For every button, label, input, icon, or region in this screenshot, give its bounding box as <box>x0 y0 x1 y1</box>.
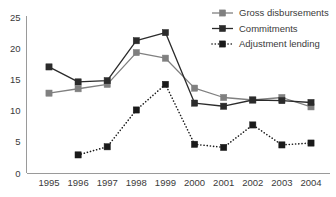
data-point-marker <box>46 90 52 96</box>
series-line <box>49 53 311 107</box>
legend-item-label: Adjustment lending <box>239 38 320 49</box>
data-point-marker <box>133 38 139 44</box>
data-point-marker <box>279 142 285 148</box>
x-tick-label: 1999 <box>155 177 176 188</box>
data-point-marker <box>133 49 139 55</box>
x-tick-label: 2001 <box>213 177 234 188</box>
data-point-marker <box>221 144 227 150</box>
chart-legend: Gross disbursementsCommitmentsAdjustment… <box>212 7 329 49</box>
data-point-marker <box>191 141 197 147</box>
series-adjustment-lending <box>75 81 314 158</box>
data-point-marker <box>162 81 168 87</box>
y-tick-label: 5 <box>15 136 20 147</box>
data-point-marker <box>191 85 197 91</box>
y-tick-labels: 0510152025 <box>10 12 21 179</box>
data-point-marker <box>75 152 81 158</box>
x-tick-label: 1995 <box>38 177 59 188</box>
y-tick-label: 10 <box>10 105 21 116</box>
legend-marker-swatch <box>219 10 225 16</box>
legend-item[interactable]: Commitments <box>212 23 298 34</box>
data-point-marker <box>162 30 168 36</box>
data-point-marker <box>221 94 227 100</box>
data-point-marker <box>133 107 139 113</box>
y-tick-label: 15 <box>10 74 21 85</box>
data-point-marker <box>279 98 285 104</box>
data-point-marker <box>250 97 256 103</box>
data-point-marker <box>191 100 197 106</box>
x-tick-label: 2002 <box>242 177 263 188</box>
legend-marker-swatch <box>219 41 225 47</box>
data-point-marker <box>104 144 110 150</box>
x-tick-labels: 1995199619971998199920002001200220032004 <box>38 177 321 188</box>
x-tick-label: 1998 <box>126 177 147 188</box>
y-tick-label: 20 <box>10 43 21 54</box>
x-tick-label: 2004 <box>300 177 321 188</box>
data-point-marker <box>308 99 314 105</box>
y-tick-label: 0 <box>15 168 20 179</box>
x-tick-label: 1997 <box>97 177 118 188</box>
data-point-marker <box>75 79 81 85</box>
data-point-marker <box>75 86 81 92</box>
data-point-marker <box>250 122 256 128</box>
line-chart: 0510152025199519961997199819992000200120… <box>0 0 336 197</box>
chart-container: 0510152025199519961997199819992000200120… <box>0 0 336 197</box>
x-tick-label: 1996 <box>68 177 89 188</box>
data-point-marker <box>308 140 314 146</box>
legend-item[interactable]: Gross disbursements <box>212 7 329 18</box>
legend-item-label: Commitments <box>239 23 298 34</box>
data-point-marker <box>46 64 52 70</box>
legend-item[interactable]: Adjustment lending <box>212 38 320 49</box>
data-point-marker <box>221 103 227 109</box>
data-point-marker <box>162 55 168 61</box>
y-tick-label: 25 <box>10 12 21 23</box>
x-tick-label: 2000 <box>184 177 205 188</box>
data-point-marker <box>104 78 110 84</box>
x-tick-label: 2003 <box>271 177 292 188</box>
legend-item-label: Gross disbursements <box>239 7 329 18</box>
legend-marker-swatch <box>219 25 225 31</box>
